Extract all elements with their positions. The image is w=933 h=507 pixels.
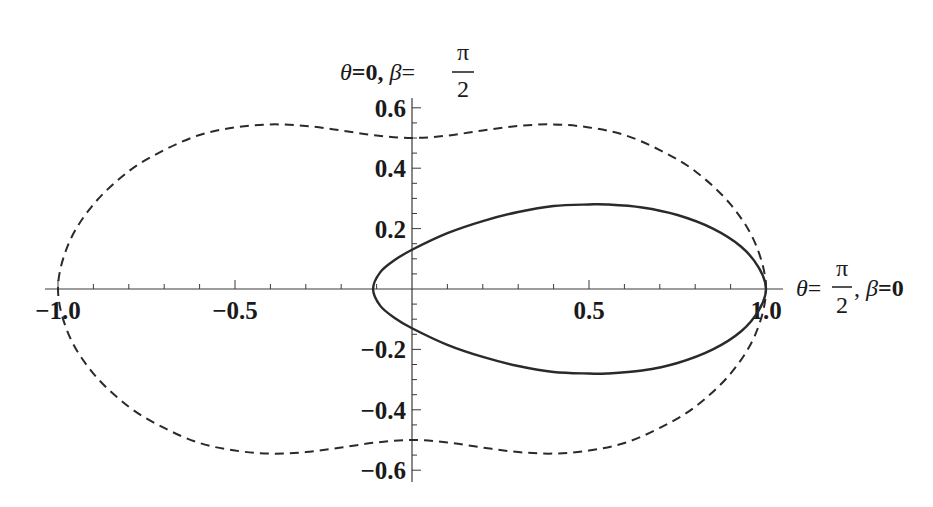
x-tick-label: −1.0	[35, 297, 81, 324]
y-tick-label: −0.2	[361, 336, 407, 363]
x-title-beta: β	[865, 275, 878, 301]
svg-text:, β=0: , β=0	[854, 275, 904, 301]
svg-text:θ=0, β=: θ=0, β=	[340, 59, 415, 85]
x-tick-label: −0.5	[212, 297, 258, 324]
x-tick-label: 0.5	[573, 297, 604, 324]
y-axis-title: θ=0, β= π 2	[340, 39, 474, 102]
y-title-pi: π	[457, 39, 469, 65]
polar-plot: −1.0−0.50.51.0−0.6−0.4−0.20.20.40.6 θ=0,…	[0, 0, 933, 507]
y-title-eq1: =0,	[352, 59, 390, 85]
svg-text:θ=: θ=	[796, 275, 821, 301]
y-tick-label: −0.6	[361, 457, 407, 484]
y-tick-label: 0.6	[375, 95, 406, 122]
x-title-sep: ,	[854, 275, 866, 301]
y-title-two: 2	[457, 76, 469, 102]
y-tick-label: −0.4	[361, 397, 407, 424]
y-tick-label: 0.2	[375, 216, 406, 243]
x-title-eq1: =	[808, 275, 822, 301]
y-title-beta: β	[388, 59, 401, 85]
x-title-eq2: =0	[878, 275, 904, 301]
y-title-eq2: =	[401, 59, 415, 85]
y-tick-label: 0.4	[375, 155, 407, 182]
x-axis-title: θ= π 2 , β=0	[796, 255, 904, 318]
x-title-pi: π	[836, 255, 848, 281]
x-title-two: 2	[836, 292, 848, 318]
y-title-theta: θ	[340, 59, 352, 85]
x-title-theta: θ	[796, 275, 808, 301]
